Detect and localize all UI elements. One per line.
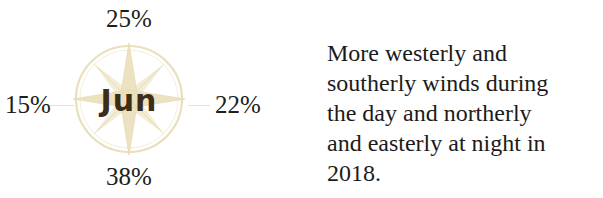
caption-text-block: More westerly and southerly winds during… [327,38,599,188]
percent-label-south: 38% [66,164,192,189]
caption-line: the day and northerly [327,98,599,128]
percent-label-north: 25% [66,6,192,31]
wind-rose-panel: Jun 25% 22% 38% 15% [0,0,300,198]
caption-line: 2018. [327,158,599,188]
percent-label-west: 15% [5,92,51,117]
caption-line: More westerly and [327,38,599,68]
caption-line: and easterly at night in [327,128,599,158]
month-label: Jun [66,82,192,120]
percent-label-east: 22% [215,92,261,117]
caption-line: southerly winds during [327,68,599,98]
